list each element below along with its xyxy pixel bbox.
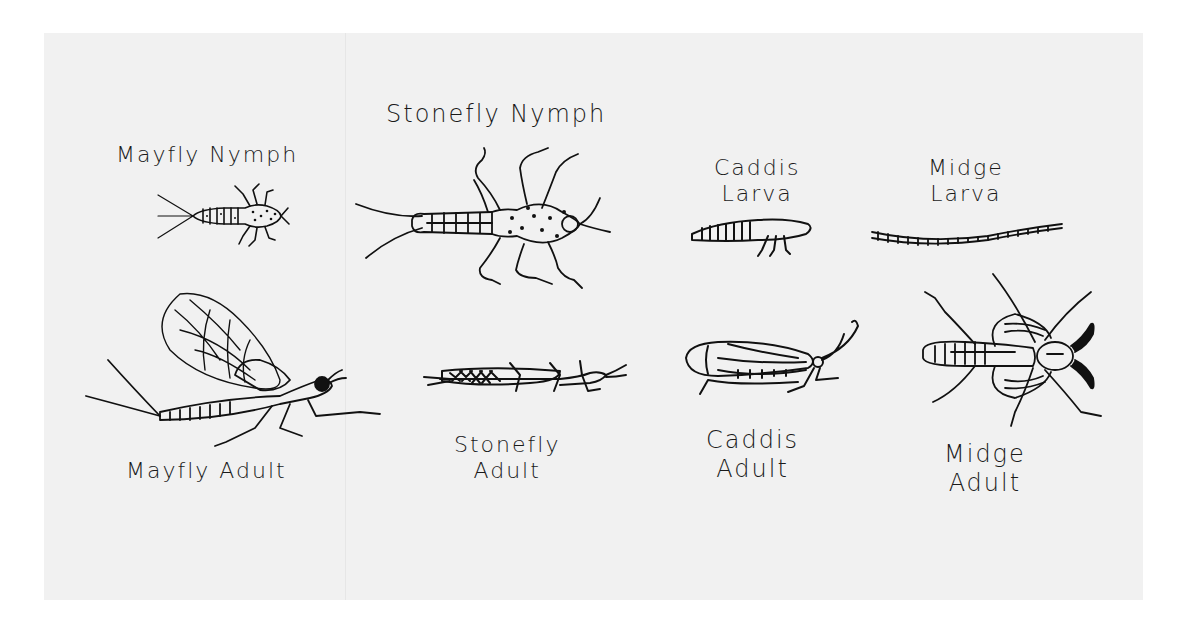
label-mayfly-adult: Mayfly Adult: [126, 458, 287, 484]
mayfly-adult-drawing-icon: [80, 280, 390, 459]
stonefly-adult-drawing-icon: [420, 355, 630, 409]
label-caddis-larva: Caddis Larva: [714, 155, 800, 208]
label-mayfly-nymph: Mayfly Nymph: [116, 142, 298, 168]
stonefly-nymph-drawing-icon: [352, 138, 612, 302]
midge-larva-drawing-icon: [868, 218, 1068, 252]
label-midge-adult: Midge Adult: [944, 440, 1026, 498]
label-midge-larva: Midge Larva: [928, 155, 1004, 208]
label-stonefly-nymph: Stonefly Nymph: [386, 100, 606, 129]
caddis-larva-drawing-icon: [688, 212, 818, 266]
label-caddis-adult: Caddis Adult: [706, 426, 799, 484]
midge-adult-drawing-icon: [915, 262, 1105, 436]
mayfly-nymph-drawing-icon: [155, 178, 295, 254]
label-stonefly-adult: Stonefly Adult: [454, 432, 560, 485]
caddis-adult-drawing-icon: [678, 318, 868, 412]
